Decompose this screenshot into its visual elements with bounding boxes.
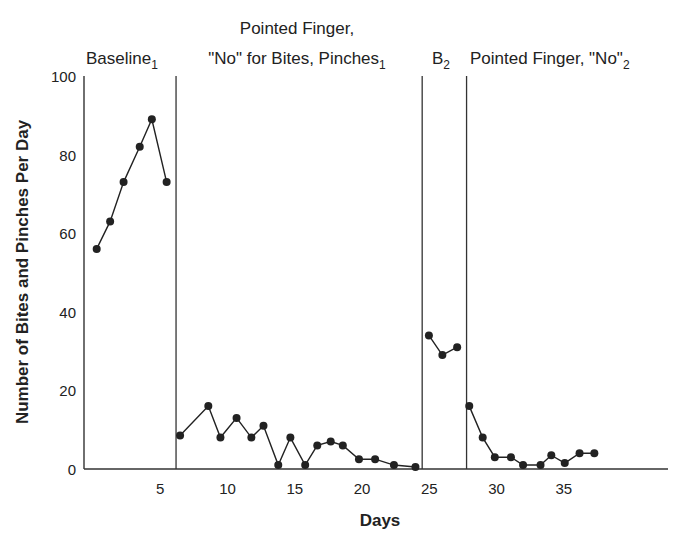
data-point	[120, 178, 128, 186]
chart: 020406080100 5101520253035 Baseline1Poin…	[0, 0, 682, 542]
axes	[84, 76, 668, 469]
data-point	[286, 434, 294, 442]
data-point	[106, 217, 114, 225]
y-tick-label: 80	[59, 147, 76, 164]
x-tick-label: 5	[156, 480, 164, 497]
data-point	[136, 143, 144, 151]
data-point	[327, 437, 335, 445]
data-point	[390, 461, 398, 469]
data-point	[148, 115, 156, 123]
x-tick-label: 35	[555, 480, 572, 497]
data-point	[259, 422, 267, 430]
data-point	[93, 245, 101, 253]
data-point	[561, 459, 569, 467]
data-point	[176, 432, 184, 440]
phase-change-lines	[176, 76, 467, 469]
series-line	[176, 402, 419, 471]
data-point	[491, 453, 499, 461]
x-tick-label: 15	[286, 480, 303, 497]
data-point	[163, 178, 171, 186]
y-axis-label: Number of Bites and Pinches Per Day	[13, 119, 32, 424]
x-tick-label: 10	[219, 480, 236, 497]
y-tick-label: 20	[59, 382, 76, 399]
x-tick-label: 30	[488, 480, 505, 497]
y-tick-labels: 020406080100	[51, 68, 76, 478]
data-series	[93, 115, 599, 471]
phase-label: Pointed Finger, "No"2	[470, 49, 630, 72]
data-point	[547, 451, 555, 459]
data-point	[216, 434, 224, 442]
data-point	[301, 461, 309, 469]
data-point	[590, 449, 598, 457]
data-point	[537, 461, 545, 469]
data-point	[576, 449, 584, 457]
data-point	[479, 434, 487, 442]
y-tick-label: 0	[68, 461, 76, 478]
data-point	[355, 455, 363, 463]
data-point	[247, 434, 255, 442]
data-point	[204, 402, 212, 410]
data-point	[274, 461, 282, 469]
phase-label: B2	[432, 49, 450, 72]
phase-label: "No" for Bites, Pinches1	[208, 49, 386, 72]
x-tick-label: 20	[354, 480, 371, 497]
series-line	[465, 402, 598, 469]
x-tick-labels: 5101520253035	[156, 480, 572, 497]
phase-label-line1: Pointed Finger,	[240, 19, 354, 38]
data-point	[313, 441, 321, 449]
y-tick-label: 60	[59, 225, 76, 242]
y-tick-label: 40	[59, 304, 76, 321]
x-tick-label: 25	[421, 480, 438, 497]
data-point	[371, 455, 379, 463]
data-point	[411, 463, 419, 471]
series-line	[93, 115, 171, 253]
data-point	[438, 351, 446, 359]
data-point	[519, 461, 527, 469]
series-line	[425, 331, 461, 359]
data-point	[233, 414, 241, 422]
x-axis-label: Days	[360, 511, 401, 530]
data-point	[453, 343, 461, 351]
data-point	[465, 402, 473, 410]
data-point	[425, 331, 433, 339]
data-point	[507, 453, 515, 461]
data-point	[339, 441, 347, 449]
phase-label: Baseline1	[86, 49, 158, 72]
y-tick-label: 100	[51, 68, 76, 85]
phase-labels: Baseline1Pointed Finger,"No" for Bites, …	[86, 19, 630, 72]
